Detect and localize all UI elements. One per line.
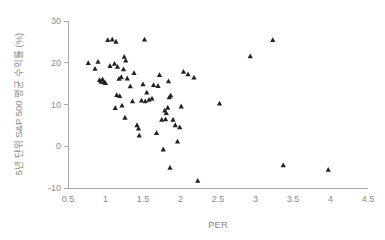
data-point-marker <box>270 37 275 42</box>
data-point-marker <box>128 84 133 89</box>
data-point-marker <box>130 99 135 104</box>
y-tick-label: 30 <box>51 16 61 26</box>
x-tick-label: 3.5 <box>287 194 300 204</box>
data-point-marker <box>155 83 160 88</box>
data-point-marker <box>131 70 136 75</box>
y-tick-label: 20 <box>51 58 61 68</box>
x-tick-label: 3 <box>253 194 258 204</box>
data-point-marker <box>177 124 182 129</box>
data-point-marker <box>165 105 170 110</box>
data-point-marker <box>170 117 175 122</box>
data-point-marker <box>122 54 127 59</box>
x-tick-label: 0.5 <box>62 194 75 204</box>
data-point-marker <box>122 115 127 120</box>
x-axis-tick-labels: 0.511.522.533.544.5 <box>62 194 375 204</box>
x-axis-title: PER <box>208 219 228 230</box>
x-tick-label: 1 <box>103 194 108 204</box>
x-tick-label: 1.5 <box>137 194 150 204</box>
data-point-marker <box>175 139 180 144</box>
y-axis-tick-labels: 3020100-10 <box>48 16 68 193</box>
x-tick-label: 2 <box>178 194 183 204</box>
data-point-marker <box>119 74 124 79</box>
data-point-marker <box>151 82 156 87</box>
data-point-marker <box>140 81 145 86</box>
data-point-marker <box>217 101 222 106</box>
data-point-marker <box>161 147 166 152</box>
data-point-marker <box>326 167 331 172</box>
data-point-marker <box>167 165 172 170</box>
data-point-marker <box>139 98 144 103</box>
data-point-marker <box>121 66 126 71</box>
data-point-marker <box>248 53 253 58</box>
data-point-marker <box>112 61 117 66</box>
data-point-marker <box>173 122 178 127</box>
y-tick-label: -10 <box>48 183 61 193</box>
data-point-marker <box>185 71 190 76</box>
chart-svg: 3020100-10 0.511.522.533.544.5 PER 5년 단위… <box>0 0 385 240</box>
data-point-marker <box>110 37 115 42</box>
x-tick-label: 4 <box>328 194 333 204</box>
data-point-marker <box>195 178 200 183</box>
y-tick-label: 0 <box>56 141 61 151</box>
data-point-marker <box>163 117 168 122</box>
data-points <box>86 37 331 183</box>
data-point-marker <box>119 103 124 108</box>
data-point-marker <box>179 104 184 109</box>
scatter-chart: 3020100-10 0.511.522.533.544.5 PER 5년 단위… <box>0 0 385 240</box>
data-point-marker <box>125 76 130 81</box>
data-point-marker <box>281 162 286 167</box>
data-point-marker <box>154 130 159 135</box>
data-point-marker <box>144 90 149 95</box>
x-tick-label: 2.5 <box>212 194 225 204</box>
data-point-marker <box>92 66 97 71</box>
data-point-marker <box>95 59 100 64</box>
data-point-marker <box>105 37 110 42</box>
data-point-marker <box>137 133 142 138</box>
data-point-marker <box>107 63 112 68</box>
data-point-marker <box>191 75 196 80</box>
y-axis-title: 5년 단위 S&P 500 평균 수익률 (%) <box>13 33 24 176</box>
x-tick-label: 4.5 <box>362 194 375 204</box>
data-point-marker <box>86 60 91 65</box>
y-tick-label: 10 <box>51 100 61 110</box>
data-point-marker <box>181 69 186 74</box>
data-point-marker <box>149 96 154 101</box>
data-point-marker <box>166 79 171 84</box>
data-point-marker <box>113 105 118 110</box>
data-point-marker <box>157 72 162 77</box>
data-point-marker <box>142 37 147 42</box>
